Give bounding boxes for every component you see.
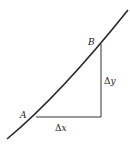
delta-y-label: Δy <box>104 76 117 86</box>
point-b-label: B <box>87 37 95 47</box>
delta-x-label: Δx <box>55 123 67 133</box>
slope-diagram: A B Δx Δy <box>0 0 130 145</box>
point-a-label: A <box>19 110 27 120</box>
